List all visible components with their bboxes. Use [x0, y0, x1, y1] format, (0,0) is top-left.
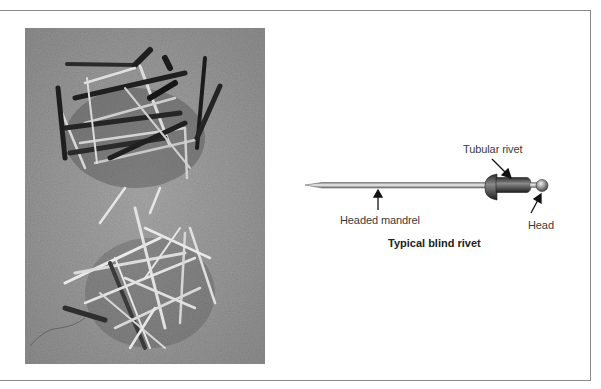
diagram-caption: Typical blind rivet [388, 237, 481, 249]
rivet-body [496, 178, 531, 193]
frame-right-border [590, 10, 591, 381]
mandrel-shaft [305, 183, 490, 189]
headed-mandrel-label: Headed mandrel [340, 214, 420, 226]
head-label: Head [528, 219, 554, 231]
rivets-photo [25, 28, 265, 364]
rivet-flange [485, 174, 497, 200]
blind-rivet-diagram: Tubular rivet Headed mandrel Head Typica… [290, 130, 580, 270]
frame-top-border [0, 10, 591, 11]
mandrel-head [536, 180, 548, 192]
tubular-rivet-label: Tubular rivet [463, 143, 522, 155]
frame-bottom-border [0, 380, 591, 381]
